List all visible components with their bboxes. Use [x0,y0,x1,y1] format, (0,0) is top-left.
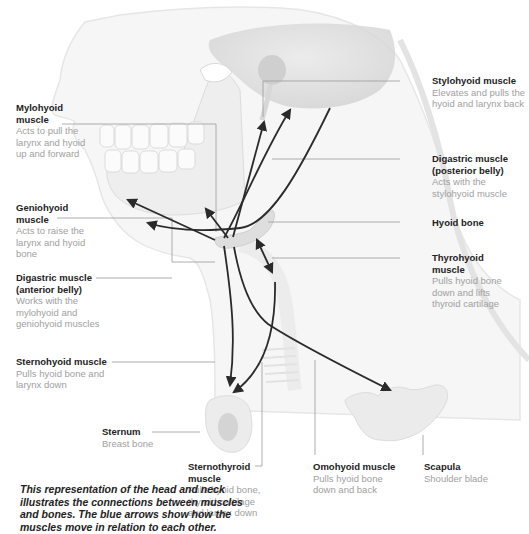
label-mylohyoid: Mylohyoid muscle Acts to pull the larynx… [16,102,96,160]
label-desc: Works with the mylohyoid and geniohyoid … [16,295,112,330]
ear-canal [258,55,286,85]
label-desc: Acts to pull the larynx and hyoid up and… [16,125,96,160]
label-thyrohyoid: Thyrohyoid muscle Pulls hyoid bone down … [432,252,512,310]
label-title: Digastric muscle (anterior belly) [16,272,112,295]
label-digastric-posterior: Digastric muscle (posterior belly) Acts … [432,153,528,199]
label-sternohyoid: Sternohyoid muscle Pulls hyoid bone and … [16,356,116,391]
label-title: Mylohyoid muscle [16,102,96,125]
label-title: Stylohyoid muscle [432,75,528,87]
label-digastric-anterior: Digastric muscle (anterior belly) Works … [16,272,112,330]
label-omohyoid: Omohyoid muscle Pulls hyoid bone down an… [313,461,403,496]
label-scapula: Scapula Shoulder blade [424,461,514,484]
label-title: Hyoid bone [432,217,528,229]
label-geniohyoid: Geniohyoid muscle Acts to raise the lary… [16,202,96,260]
label-stylohyoid: Stylohyoid muscle Elevates and pulls the… [432,75,528,110]
label-title: Scapula [424,461,514,473]
label-desc: Breast bone [102,438,162,450]
figure-caption: This representation of the head and neck… [20,483,250,533]
label-desc: Shoulder blade [424,473,514,485]
label-title: Sternohyoid muscle [16,356,116,368]
label-title: Sternothyroid muscle [188,461,273,484]
label-desc: Acts to raise the larynx and hyoid bone [16,225,96,260]
label-desc: Acts with the stylohyoid muscle [432,176,528,199]
label-title: Geniohyoid muscle [16,202,96,225]
scapula-bone [345,385,448,441]
label-sternum: Sternum Breast bone [102,426,162,449]
label-title: Thyrohyoid muscle [432,252,512,275]
label-desc: Elevates and pulls the hyoid and larynx … [432,87,528,110]
label-desc: Pulls hyoid bone down and lifts thyroid … [432,275,512,310]
label-title: Omohyoid muscle [313,461,403,473]
label-title: Digastric muscle (posterior belly) [432,153,528,176]
label-title: Sternum [102,426,162,438]
label-hyoid: Hyoid bone [432,217,528,229]
sternum-bone [205,396,251,453]
label-desc: Pulls hyoid bone down and back [313,473,403,496]
label-desc: Pulls hyoid bone and larynx down [16,368,116,391]
